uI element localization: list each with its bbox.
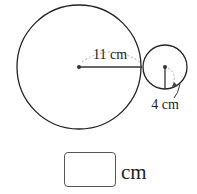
small-circle: 4 cm [143,45,187,112]
answer-input[interactable] [64,152,116,187]
large-circle: 11 cm [17,5,142,129]
large-radius-label: 11 cm [93,47,127,62]
answer-unit: cm [121,160,147,185]
small-radius-label: 4 cm [151,97,179,112]
